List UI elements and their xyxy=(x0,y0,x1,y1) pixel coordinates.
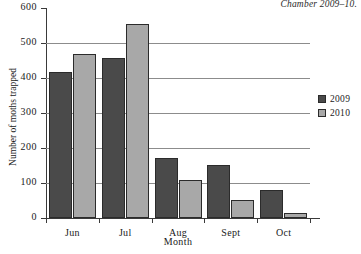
y-tick-label: 200 xyxy=(21,141,38,152)
bar-sept-2009 xyxy=(207,165,230,218)
y-tick: 100 xyxy=(41,183,46,184)
bar-oct-2009 xyxy=(260,190,283,218)
legend-swatch-2009 xyxy=(318,95,326,103)
y-tick-label: 0 xyxy=(32,211,38,222)
legend-label-2009: 2009 xyxy=(330,94,350,104)
y-tick-label: 400 xyxy=(21,71,38,82)
bar-jul-2009 xyxy=(102,58,125,218)
bar-jul-2010 xyxy=(126,24,149,218)
chart-legend: 20092010 xyxy=(318,92,350,120)
bar-aug-2009 xyxy=(155,158,178,218)
y-tick-label: 300 xyxy=(21,106,38,117)
legend-item-2010[interactable]: 2010 xyxy=(318,106,350,120)
y-tick-label: 100 xyxy=(21,176,38,187)
bar-sept-2010 xyxy=(231,200,254,218)
x-tick xyxy=(46,218,47,223)
x-tick xyxy=(152,218,153,223)
legend-label-2010: 2010 xyxy=(330,108,350,118)
y-tick: 200 xyxy=(41,148,46,149)
x-tick xyxy=(310,218,311,223)
y-axis-title: Number of moths trapped xyxy=(8,42,18,192)
legend-item-2009[interactable]: 2009 xyxy=(318,92,350,106)
x-tick xyxy=(99,218,100,223)
y-tick: 500 xyxy=(41,43,46,44)
x-axis-title: Month xyxy=(46,236,310,247)
y-tick-label: 600 xyxy=(21,1,38,12)
y-tick: 300 xyxy=(41,113,46,114)
bar-aug-2010 xyxy=(179,180,202,218)
bar-jun-2009 xyxy=(49,72,72,218)
y-tick-label: 500 xyxy=(21,36,38,47)
legend-swatch-2010 xyxy=(318,109,326,117)
x-tick xyxy=(204,218,205,223)
y-tick: 600 xyxy=(41,8,46,9)
gridline xyxy=(46,43,310,44)
bar-jun-2010 xyxy=(73,54,96,219)
plot-area: 0100200300400500600 JunJulAugSeptOct xyxy=(46,8,310,218)
x-axis-line xyxy=(46,218,320,219)
bar-oct-2010 xyxy=(284,213,307,218)
y-tick: 400 xyxy=(41,78,46,79)
x-tick xyxy=(257,218,258,223)
